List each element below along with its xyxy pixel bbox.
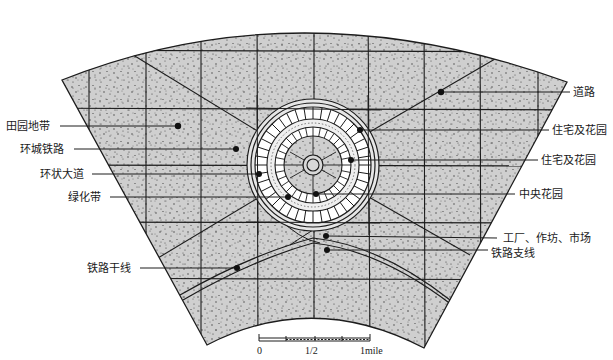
label-circular-railway: 环城铁路 (20, 143, 64, 156)
label-houses-gardens-outer: 住宅及花园 (552, 123, 607, 137)
scale-tick-half: 1/2 (305, 345, 318, 356)
label-agricultural-belt: 田园地带 (6, 120, 50, 133)
scale-tick-0: 0 (257, 345, 262, 356)
label-grand-avenue: 环状大道 (40, 167, 84, 181)
garden-city-diagram: 田园地带 环城铁路 环状大道 绿化带 铁路干线 道路 住宅及花园 住宅及花园 中… (0, 0, 613, 360)
label-central-park: 中央花园 (519, 188, 563, 201)
scale-bar: 0 1/2 1mile (257, 334, 383, 356)
label-factories-markets: 工厂、作坊、市场 (503, 231, 591, 245)
label-railway-branch: 铁路支线 (491, 246, 535, 260)
label-road: 道路 (573, 85, 595, 99)
label-green-belt: 绿化带 (68, 190, 101, 204)
label-main-railway: 铁路干线 (87, 261, 131, 275)
label-houses-gardens-inner: 住宅及花园 (541, 153, 596, 167)
scale-tick-1mile: 1mile (360, 345, 383, 356)
